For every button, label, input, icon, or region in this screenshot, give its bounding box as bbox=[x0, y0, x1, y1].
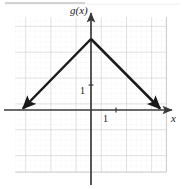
top-edge-artifact-faint bbox=[5, 4, 180, 5]
x-tick-label-1: 1 bbox=[103, 113, 108, 124]
x-axis-label: x bbox=[170, 112, 176, 124]
coordinate-plane: g(x) x 1 1 bbox=[0, 0, 185, 189]
y-tick-label-1: 1 bbox=[80, 85, 85, 96]
graph-figure: g(x) x 1 1 bbox=[0, 0, 185, 189]
function-label: g(x) bbox=[70, 4, 88, 17]
